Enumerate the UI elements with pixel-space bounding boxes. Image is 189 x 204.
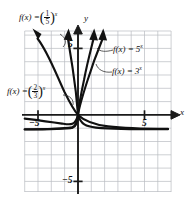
exponential-functions-graph: f(x) =(15)x f(x) =(23)x f(x) =5x f(x) =3…	[0, 0, 189, 204]
label-two-thirds-prefix: f(x) =	[7, 86, 28, 96]
y-tick-label-positive-five: 5	[68, 39, 73, 49]
x-axis-label: x	[180, 108, 184, 117]
x-tick-label-negative-five: −5	[29, 118, 40, 128]
label-two-thirds-power-x: f(x) =(23)x	[7, 84, 45, 100]
label-two-thirds-exponent: x	[43, 85, 45, 91]
label-one-fifth-power-x: f(x) =(15)x	[19, 10, 57, 26]
x-axis-arrow	[171, 111, 180, 120]
label-one-fifth-exponent: x	[55, 11, 57, 17]
x-tick-label-positive-five: 5	[142, 118, 147, 128]
arrow-five-power	[89, 29, 98, 41]
label-five-exponent: x	[140, 43, 142, 49]
label-five-prefix: f(x) =	[113, 44, 134, 54]
leader-three-power	[96, 64, 112, 72]
label-five-power-x: f(x) =5x	[113, 44, 143, 54]
y-tick-label-negative-five: −5	[62, 175, 73, 185]
y-axis-label: y	[84, 14, 88, 23]
label-two-thirds-paren-close: )	[38, 86, 43, 97]
label-three-prefix: f(x) =	[112, 66, 133, 76]
y-axis-arrow	[74, 25, 83, 34]
arrow-three-power	[98, 29, 107, 41]
graph-canvas	[0, 0, 189, 204]
label-one-fifth-prefix: f(x) =	[19, 12, 40, 22]
label-one-fifth-paren-close: )	[50, 12, 55, 23]
label-three-exponent: x	[139, 65, 141, 71]
label-three-power-x: f(x) =3x	[112, 66, 142, 76]
